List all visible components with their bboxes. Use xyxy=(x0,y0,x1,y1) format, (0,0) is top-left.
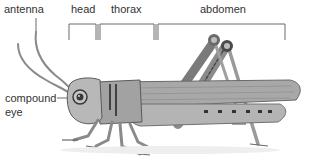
label-abdomen: abdomen xyxy=(200,3,246,16)
grasshopper-anatomy-diagram: antenna head thorax abdomen compound eye xyxy=(0,0,309,164)
head-bracket xyxy=(69,24,96,40)
abdomen-bracket xyxy=(158,24,285,40)
thorax-body xyxy=(96,80,142,124)
label-thorax: thorax xyxy=(111,3,142,16)
label-compound-eye-line2: eye xyxy=(5,106,23,119)
thorax-bracket xyxy=(100,24,154,40)
abdomen-body xyxy=(127,104,286,126)
label-compound-eye-line1: compound xyxy=(5,92,56,105)
grasshopper-illustration xyxy=(0,0,309,164)
antennae xyxy=(18,32,70,92)
label-head: head xyxy=(71,3,95,16)
label-antenna: antenna xyxy=(4,3,44,16)
